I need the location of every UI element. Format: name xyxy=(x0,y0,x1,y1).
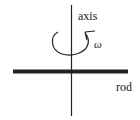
rod-label: rod xyxy=(116,80,132,94)
omega-label: ω xyxy=(94,38,102,50)
rotating-rod-diagram: axis ω rod xyxy=(0,0,140,120)
axis-label: axis xyxy=(78,9,98,23)
rotation-arrow-icon xyxy=(52,31,95,55)
